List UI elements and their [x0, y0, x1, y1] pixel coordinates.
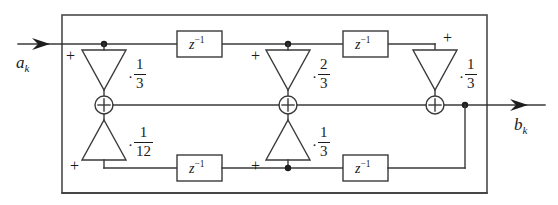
gain-numerator: 1	[465, 57, 477, 73]
plus-top-left: +	[66, 48, 75, 64]
gain-numerator: 2	[318, 57, 330, 73]
plus-top-middle: +	[251, 48, 260, 64]
amplifier-bottom-middle	[266, 120, 310, 160]
delay-label-top-left: z−1	[189, 36, 205, 52]
delay-exponent: −1	[360, 35, 370, 45]
gain-top-left: · 1 3	[128, 57, 146, 92]
tap-dot-bottom-middle	[285, 165, 291, 171]
gain-denominator: 3	[318, 76, 330, 92]
amplifier-top-left	[82, 50, 126, 90]
gain-bottom-middle: · 1 3	[312, 125, 330, 160]
amplifier-bottom-left	[82, 120, 126, 160]
gain-multiply-dot: ·	[128, 70, 133, 85]
gain-denominator: 3	[134, 76, 146, 92]
gain-fraction: 1 3	[134, 57, 146, 92]
delay-label-bottom-left: z−1	[189, 160, 205, 176]
gain-multiply-dot: ·	[312, 70, 317, 85]
signal-flow-diagram: ak bk + + + + + z−1 z−1 z−1 z−1 · 1 3 · …	[0, 0, 558, 205]
gain-numerator: 1	[134, 57, 146, 73]
gain-fraction: 2 3	[318, 57, 330, 92]
delay-label-top-right: z−1	[355, 36, 371, 52]
gain-bottom-left: · 1 12	[128, 125, 153, 160]
delay-exponent: −1	[194, 159, 204, 169]
input-signal-subscript: k	[25, 62, 30, 74]
delay-exponent: −1	[360, 159, 370, 169]
gain-multiply-dot: ·	[459, 70, 464, 85]
plus-bottom-left: +	[70, 158, 79, 174]
gain-denominator: 3	[465, 76, 477, 92]
amplifier-top-right	[413, 50, 457, 90]
gain-multiply-dot: ·	[128, 138, 133, 153]
gain-denominator: 3	[318, 144, 330, 160]
gain-numerator: 1	[318, 125, 330, 141]
gain-fraction: 1 12	[134, 125, 153, 160]
outer-frame	[62, 15, 487, 193]
output-signal-label: bk	[514, 116, 527, 136]
gain-fraction: 1 3	[318, 125, 330, 160]
output-signal-subscript: k	[523, 124, 528, 136]
gain-multiply-dot: ·	[312, 138, 317, 153]
gain-numerator: 1	[134, 125, 153, 141]
gain-top-middle: · 2 3	[312, 57, 330, 92]
diagram-canvas	[0, 0, 558, 205]
gain-denominator: 12	[134, 144, 153, 160]
delay-label-bottom-right: z−1	[355, 160, 371, 176]
input-signal-symbol: a	[16, 53, 25, 72]
input-signal-label: ak	[16, 54, 29, 74]
delay-exponent: −1	[194, 35, 204, 45]
gain-fraction: 1 3	[465, 57, 477, 92]
plus-bottom-middle: +	[251, 158, 260, 174]
amplifier-top-middle	[266, 50, 310, 90]
gain-top-right: · 1 3	[459, 57, 477, 92]
plus-top-right: +	[443, 30, 452, 46]
output-signal-symbol: b	[514, 115, 523, 134]
